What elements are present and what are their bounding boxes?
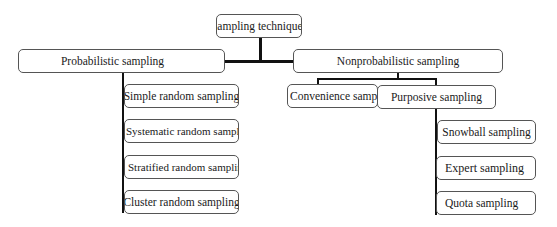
node-cluster-random-sampling: Cluster random sampling [124,190,239,214]
node-label: Sampling techniques [216,20,302,32]
node-label: Stratified random sampling [128,161,239,173]
connector-nonprob-horizontal [317,78,437,80]
node-label: Probabilistic sampling [61,55,164,67]
node-label: Convenience sampling [290,90,378,102]
node-label: Quota sampling [445,197,518,209]
node-label: Simple random sampling [124,90,239,102]
connector-root-horizontal [225,60,293,63]
node-simple-random-sampling: Simple random sampling [124,84,239,108]
node-snowball-sampling: Snowball sampling [437,120,536,144]
node-label: Systematic random sampling [126,125,239,137]
node-sampling-techniques: Sampling techniques [216,14,302,38]
node-stratified-random-sampling: Stratified random sampling [124,155,239,179]
connector-purposive-down [435,78,437,85]
node-probabilistic-sampling: Probabilistic sampling [18,49,225,73]
node-systematic-random-sampling: Systematic random sampling [124,119,239,143]
node-purposive-sampling: Purposive sampling [377,85,496,109]
node-expert-sampling: Expert sampling [436,156,536,180]
connector-root-down [259,37,262,62]
node-label: Cluster random sampling [124,196,239,208]
node-nonprobabilistic-sampling: Nonprobabilistic sampling [293,49,503,73]
node-label: Purposive sampling [391,91,482,103]
node-label: Expert sampling [445,161,524,176]
node-quota-sampling: Quota sampling [436,191,536,215]
node-convenience-sampling: Convenience sampling [287,84,378,108]
node-label: Nonprobabilistic sampling [337,55,459,67]
node-label: Snowball sampling [442,126,531,138]
